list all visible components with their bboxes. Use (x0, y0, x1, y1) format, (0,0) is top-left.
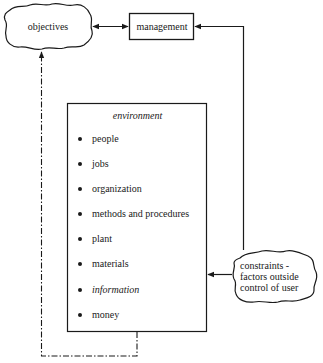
item-label: materials (92, 258, 129, 269)
bullet-icon (78, 137, 82, 141)
bullet-icon (78, 187, 82, 191)
item-label: money (92, 309, 119, 320)
environment-item: materials (78, 258, 129, 270)
environment-item: methods and procedures (78, 208, 189, 220)
bullet-icon (78, 162, 82, 166)
environment-item: people (78, 133, 119, 145)
item-label: jobs (92, 158, 109, 169)
environment-item: plant (78, 233, 112, 245)
management-label: management (130, 21, 194, 32)
objectives-label: objectives (2, 21, 94, 32)
environment-title: environment (68, 110, 207, 121)
bullet-icon (78, 288, 82, 292)
bullet-icon (78, 262, 82, 266)
environment-item: information (78, 284, 139, 296)
bullet-icon (78, 237, 82, 241)
item-label: organization (92, 183, 142, 194)
item-label: people (92, 133, 119, 144)
item-label: information (92, 284, 139, 295)
bullet-icon (78, 212, 82, 216)
item-label: plant (92, 233, 112, 244)
bullet-icon (78, 313, 82, 317)
constraints-line: factors outside (240, 271, 299, 282)
constraints-line: constraints - (240, 260, 299, 271)
diagram-canvas (0, 0, 323, 363)
environment-item: jobs (78, 158, 109, 170)
environment-item: money (78, 309, 119, 321)
environment-item: organization (78, 183, 142, 195)
constraints-label: constraints - factors outside control of… (240, 260, 299, 293)
constraints-line: control of user (240, 282, 299, 293)
item-label: methods and procedures (92, 208, 189, 219)
